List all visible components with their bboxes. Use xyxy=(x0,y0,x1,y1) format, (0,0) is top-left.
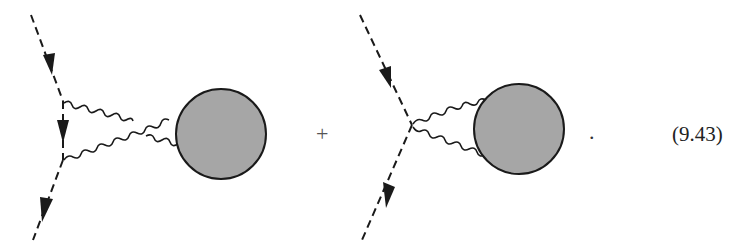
photon-line xyxy=(146,135,178,146)
blob xyxy=(176,89,266,179)
photon-line xyxy=(64,119,169,160)
blob xyxy=(474,84,564,174)
diagram-crossed-photons xyxy=(31,15,266,240)
arrow-icon xyxy=(57,120,69,143)
arrow-icon xyxy=(43,53,55,75)
arrow-icon xyxy=(379,66,391,88)
photon-line xyxy=(64,101,133,121)
equation-terminator: . xyxy=(589,119,595,145)
arrow-icon xyxy=(40,197,53,222)
plus-operator: + xyxy=(316,121,328,147)
equation-number: (9.43) xyxy=(672,122,723,147)
feynman-diagrams xyxy=(0,0,756,252)
arrow-icon xyxy=(383,182,395,208)
outgoing-scalar-line xyxy=(362,125,412,240)
diagram-seagull-loop xyxy=(360,15,564,240)
